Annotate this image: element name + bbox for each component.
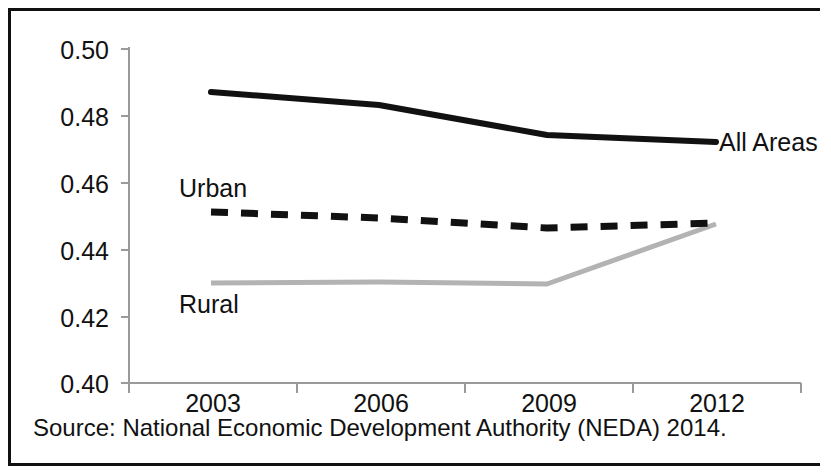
- y-tick-label-5: 0.40: [19, 370, 109, 399]
- y-tick-label-2: 0.46: [19, 170, 109, 199]
- series-label-all-areas: All Areas: [719, 128, 818, 157]
- y-tick-label-4: 0.42: [19, 304, 109, 333]
- y-tick-label-3: 0.44: [19, 237, 109, 266]
- series-line-urban: [211, 212, 716, 228]
- series-label-rural: Rural: [179, 290, 239, 319]
- series-line-all-areas: [211, 92, 716, 142]
- line-chart: [11, 11, 823, 411]
- y-tick-label-1: 0.48: [19, 103, 109, 132]
- series-label-urban: Urban: [179, 174, 247, 203]
- series-line-rural: [211, 224, 716, 284]
- source-note: Source: National Economic Development Au…: [33, 414, 727, 442]
- figure-frame: 0.50 0.48 0.46 0.44 0.42 0.40 2003 2006 …: [8, 8, 820, 466]
- y-axis-ticks: [121, 49, 129, 383]
- y-tick-label-0: 0.50: [19, 36, 109, 65]
- chart-plot-area: 0.50 0.48 0.46 0.44 0.42 0.40 2003 2006 …: [11, 11, 823, 411]
